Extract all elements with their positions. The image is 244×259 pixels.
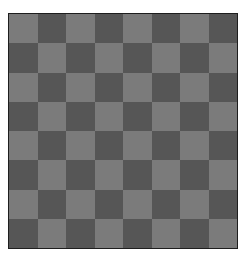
board-square[interactable] xyxy=(123,190,152,219)
board-square[interactable] xyxy=(66,219,95,248)
board-square[interactable] xyxy=(152,102,181,131)
board-square[interactable] xyxy=(9,102,38,131)
board-square[interactable] xyxy=(95,190,124,219)
board-square[interactable] xyxy=(95,131,124,160)
board-square[interactable] xyxy=(9,73,38,102)
board-square[interactable] xyxy=(9,219,38,248)
board-square[interactable] xyxy=(38,190,67,219)
board-square[interactable] xyxy=(123,219,152,248)
board-square[interactable] xyxy=(95,73,124,102)
board-square[interactable] xyxy=(9,190,38,219)
board-square[interactable] xyxy=(180,14,209,43)
board-square[interactable] xyxy=(152,43,181,72)
board-square[interactable] xyxy=(209,102,238,131)
board-square[interactable] xyxy=(95,219,124,248)
board-square[interactable] xyxy=(180,43,209,72)
board-square[interactable] xyxy=(180,190,209,219)
board-square[interactable] xyxy=(209,190,238,219)
board-square[interactable] xyxy=(95,102,124,131)
board-square[interactable] xyxy=(66,73,95,102)
board-square[interactable] xyxy=(152,160,181,189)
board-square[interactable] xyxy=(123,102,152,131)
board-square[interactable] xyxy=(38,102,67,131)
checkerboard xyxy=(8,13,238,249)
board-square[interactable] xyxy=(152,14,181,43)
board-square[interactable] xyxy=(9,160,38,189)
board-square[interactable] xyxy=(38,131,67,160)
board-square[interactable] xyxy=(209,73,238,102)
board-square[interactable] xyxy=(123,14,152,43)
board-square[interactable] xyxy=(95,160,124,189)
board-square[interactable] xyxy=(123,43,152,72)
board-square[interactable] xyxy=(38,43,67,72)
board-square[interactable] xyxy=(95,43,124,72)
board-square[interactable] xyxy=(38,73,67,102)
board-square[interactable] xyxy=(152,131,181,160)
board-square[interactable] xyxy=(66,102,95,131)
board-square[interactable] xyxy=(180,73,209,102)
board-square[interactable] xyxy=(9,14,38,43)
board-square[interactable] xyxy=(180,131,209,160)
board-square[interactable] xyxy=(38,160,67,189)
board-square[interactable] xyxy=(209,160,238,189)
board-square[interactable] xyxy=(209,14,238,43)
board-square[interactable] xyxy=(180,219,209,248)
board-square[interactable] xyxy=(123,73,152,102)
board-square[interactable] xyxy=(38,219,67,248)
board-square[interactable] xyxy=(152,219,181,248)
board-square[interactable] xyxy=(38,14,67,43)
board-square[interactable] xyxy=(209,131,238,160)
board-square[interactable] xyxy=(209,219,238,248)
board-square[interactable] xyxy=(9,43,38,72)
board-square[interactable] xyxy=(152,73,181,102)
board-square[interactable] xyxy=(66,43,95,72)
board-square[interactable] xyxy=(209,43,238,72)
board-square[interactable] xyxy=(152,190,181,219)
board-square[interactable] xyxy=(95,14,124,43)
board-square[interactable] xyxy=(180,160,209,189)
board-square[interactable] xyxy=(123,160,152,189)
board-square[interactable] xyxy=(66,14,95,43)
board-square[interactable] xyxy=(123,131,152,160)
board-square[interactable] xyxy=(66,190,95,219)
board-square[interactable] xyxy=(180,102,209,131)
board-square[interactable] xyxy=(66,160,95,189)
board-square[interactable] xyxy=(9,131,38,160)
board-square[interactable] xyxy=(66,131,95,160)
